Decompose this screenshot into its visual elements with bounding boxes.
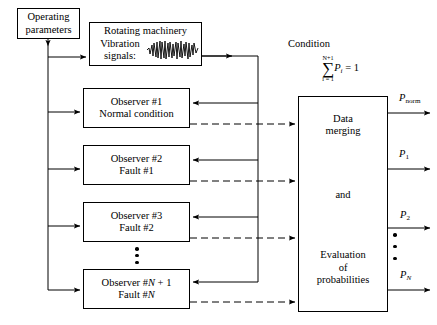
condition-label: Condition	[288, 38, 330, 49]
block-diagram-canvas: Operating parameters Rotating machinery …	[0, 0, 437, 325]
sigma-icon: ∑	[322, 62, 334, 76]
vibration-signals-line1: Vibration	[94, 38, 146, 49]
observer-2-block: Observer #2 Fault #1	[83, 145, 190, 185]
probability-sum-formula: N+1 ∑ i = 1 Pi = 1	[322, 55, 359, 82]
observer-1-line2: Normal condition	[99, 108, 173, 120]
sum-body: Pi = 1	[334, 63, 359, 75]
ellipsis-dot	[393, 233, 397, 237]
merge-box-line6: probabilities	[317, 274, 370, 286]
merge-box-line3: and	[335, 189, 350, 201]
sum-limits: N+1 ∑ i = 1	[322, 55, 334, 82]
observer-2-line1: Observer #2	[111, 153, 163, 165]
vibration-waveform-icon	[147, 39, 199, 61]
ellipsis-dot	[393, 245, 397, 249]
merge-box-line2: merging	[326, 125, 361, 137]
ellipsis-dot	[393, 257, 397, 261]
observer-n-plus-1-block: Observer #N + 1 Fault #N	[83, 269, 190, 309]
operating-parameters-line2: parameters	[25, 24, 71, 36]
merge-box-line4: Evaluation	[320, 249, 366, 261]
output-label-p2: P2	[400, 209, 410, 222]
observer-3-block: Observer #3 Fault #2	[83, 202, 190, 242]
rotating-machinery-block: Rotating machinery Vibration signals:	[89, 22, 202, 66]
observer-1-block: Observer #1 Normal condition	[83, 88, 190, 128]
output-label-p-norm: Pnorm	[399, 92, 420, 105]
sum-lower-limit: i = 1	[322, 75, 333, 82]
ellipsis-dot	[135, 247, 139, 251]
observer-1-line1: Observer #1	[111, 96, 163, 108]
vibration-signals-label: Vibration signals:	[94, 38, 146, 61]
output-vertical-ellipsis-icon	[393, 233, 397, 260]
ellipsis-dot	[135, 254, 139, 258]
rotating-machinery-title: Rotating machinery	[90, 25, 201, 37]
observer-3-line2: Fault #2	[119, 222, 154, 234]
ellipsis-dot	[135, 261, 139, 265]
vibration-signals-line2: signals:	[94, 50, 146, 61]
operating-parameters-block: Operating parameters	[17, 8, 80, 39]
merge-box-line5: of	[339, 262, 348, 274]
observer-n-plus-1-line1: Observer #N + 1	[102, 277, 172, 289]
observer-3-line1: Observer #3	[111, 210, 163, 222]
observer-2-line2: Fault #1	[119, 165, 154, 177]
vibration-signals-row: Vibration signals:	[90, 38, 201, 61]
operating-parameters-line1: Operating	[28, 11, 70, 23]
output-label-p1: P1	[399, 148, 409, 161]
output-label-pn: PN	[400, 269, 411, 282]
data-merging-evaluation-block: Data merging and Evaluation of probabili…	[298, 96, 388, 312]
merge-box-line1: Data	[333, 113, 353, 125]
observer-vertical-ellipsis-icon	[135, 247, 139, 264]
observer-n-plus-1-line2: Fault #N	[118, 289, 154, 301]
